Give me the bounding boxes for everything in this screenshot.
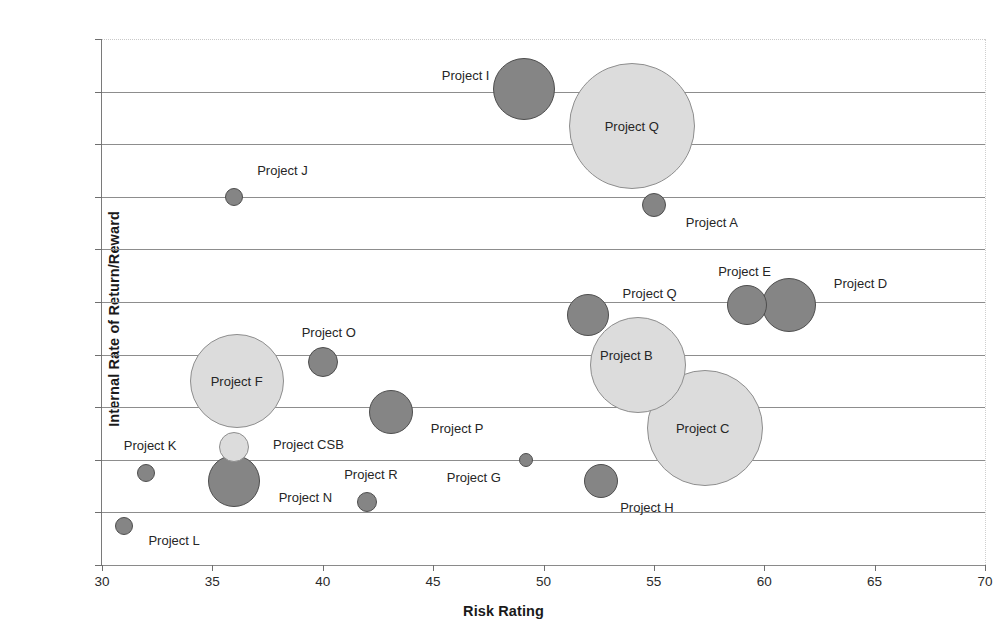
y-axis-tick [95,144,102,145]
x-axis-tick-label: 35 [205,574,220,589]
bubble-project-i-0[interactable] [493,58,555,120]
y-axis-tick [95,565,102,566]
bubble-label-project-q-4: Project Q [623,286,677,301]
x-axis-tick-label: 45 [426,574,441,589]
bubble-label-project-j-3: Project J [257,162,308,177]
y-axis-tick [95,249,102,250]
bubble-project-r-16[interactable] [357,492,377,512]
y-axis-tick [95,197,102,198]
x-axis-tick [433,565,434,571]
bubble-project-l-15[interactable] [115,517,133,535]
y-axis-tick [95,512,102,513]
bubble-project-csb-12[interactable] [219,432,249,462]
bubble-project-h-18[interactable] [584,464,618,498]
gridline [102,144,985,145]
bubble-project-q-1[interactable] [569,63,695,189]
bubble-project-f-9[interactable] [190,334,284,428]
y-axis-tick [95,355,102,356]
gridline [102,39,985,40]
x-axis-tick [102,565,103,571]
bubble-label-project-n-13: Project N [279,489,332,504]
y-axis-tick [95,407,102,408]
bubble-label-project-i-0: Project I [442,67,490,82]
x-axis-tick [764,565,765,571]
x-axis-tick-label: 40 [315,574,330,589]
bubble-project-d-6[interactable] [762,278,816,332]
bubble-project-e-5[interactable] [727,285,767,325]
bubble-label-project-csb-12: Project CSB [273,436,344,451]
bubble-project-q-4[interactable] [567,294,609,336]
y-axis-tick [95,39,102,40]
x-axis-tick [212,565,213,571]
x-axis-tick [985,565,986,571]
bubble-label-project-a-2: Project A [686,214,738,229]
gridline [102,302,985,303]
bubble-project-g-17[interactable] [519,453,533,467]
x-axis-tick-label: 30 [94,574,109,589]
bubble-project-a-2[interactable] [642,193,666,217]
x-axis-tick-label: 65 [867,574,882,589]
gridline [102,249,985,250]
y-axis-tick [95,92,102,93]
x-axis-tick [654,565,655,571]
bubble-project-k-14[interactable] [137,464,155,482]
x-axis-tick [544,565,545,571]
gridline [102,512,985,513]
x-axis-tick-label: 70 [977,574,992,589]
bubble-label-project-k-14: Project K [124,437,177,452]
x-axis-tick-label: 60 [757,574,772,589]
bubble-label-project-e-5: Project E [718,263,771,278]
bubble-project-p-11[interactable] [369,390,413,434]
bubble-label-project-h-18: Project H [620,499,673,514]
bubble-label-project-d-6: Project D [834,275,887,290]
y-axis-tick [95,302,102,303]
x-axis-tick-label: 55 [646,574,661,589]
y-axis-tick [95,460,102,461]
bubble-chart: Internal Rate of Return/Reward Risk Rati… [0,0,1007,638]
bubble-project-n-13[interactable] [208,455,260,507]
plot-right-edge [985,39,986,565]
bubble-project-b-7[interactable] [590,317,686,413]
bubble-label-project-r-16: Project R [344,466,397,481]
bubble-project-j-3[interactable] [225,188,243,206]
plot-area: 303540455055606570 Project GProject LPro… [101,39,985,566]
x-axis-title: Risk Rating [0,603,1007,619]
bubble-label-project-o-10: Project O [302,325,356,340]
x-axis-tick [875,565,876,571]
bubble-label-project-p-11: Project P [431,421,484,436]
bubble-project-o-10[interactable] [308,347,338,377]
bubble-label-project-l-15: Project L [148,532,199,547]
chart-title [0,0,1007,1]
x-axis-tick [323,565,324,571]
bubble-label-project-g-17: Project G [447,469,501,484]
x-axis-tick-label: 50 [536,574,551,589]
